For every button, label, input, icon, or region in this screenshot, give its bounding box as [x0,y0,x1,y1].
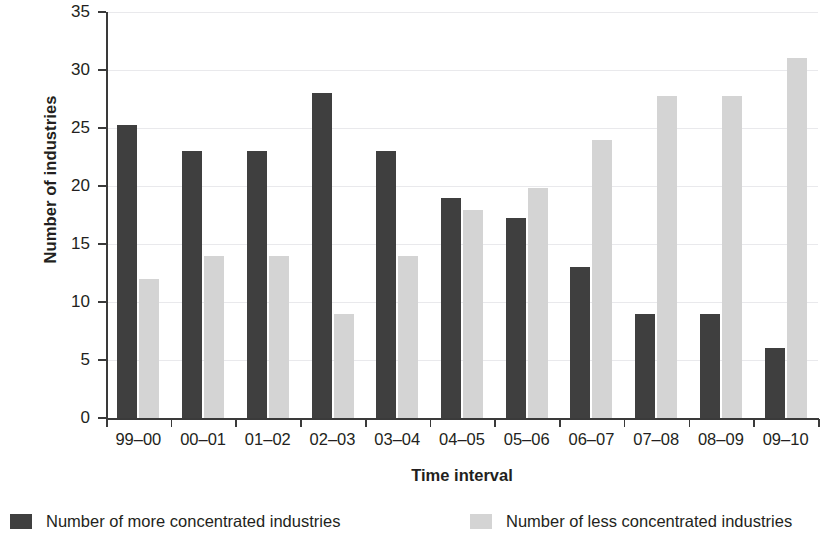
x-axis-tick-label: 07–08 [624,430,689,448]
legend-swatch-dark [10,514,32,529]
bar [312,93,332,418]
x-axis-tick-label: 06–07 [559,430,624,448]
x-axis-tick-label: 01–02 [235,430,300,448]
bar-group [635,12,677,418]
bar [139,279,159,418]
x-axis-tick-label: 09–10 [753,430,818,448]
x-axis-tick-label: 02–03 [300,430,365,448]
y-axis-tick-labels: 05101520253035 [28,0,90,430]
bar [441,198,461,418]
bar-group [570,12,612,418]
bar-group [441,12,483,418]
x-axis-tick-labels: 99–0000–0101–0202–0303–0404–0505–0606–07… [106,430,818,456]
bar [635,314,655,418]
bar [787,58,807,418]
legend-label: Number of more concentrated industries [46,512,340,531]
bar-group [765,12,807,418]
y-axis-line [106,12,108,419]
bar [657,96,677,418]
bar-group [247,12,289,418]
chart-legend: Number of more concentrated industriesNu… [0,508,823,542]
x-axis-tick [624,419,626,427]
bar-group [700,12,742,418]
y-axis-tick [98,301,106,303]
x-axis-tick [300,419,302,427]
bar [506,218,526,418]
x-axis-tick [494,419,496,427]
bar-group [182,12,224,418]
y-axis-tick [98,127,106,129]
bar [570,267,590,418]
bar [398,256,418,418]
bar-group [117,12,159,418]
x-axis-tick [818,419,820,427]
x-axis-tick [559,419,561,427]
x-axis-tick [753,419,755,427]
x-axis-tick-label: 04–05 [430,430,495,448]
y-axis-tick-label: 30 [30,61,90,78]
legend-swatch-light [470,514,492,529]
x-axis-tick [430,419,432,427]
x-axis-tick-label: 08–09 [689,430,754,448]
y-axis-tick-label: 15 [30,235,90,252]
x-axis-tick [235,419,237,427]
bar [765,348,785,418]
bar [334,314,354,418]
x-axis-tick [365,419,367,427]
x-axis-tick-label: 99–00 [106,430,171,448]
y-axis-tick-label: 25 [30,119,90,136]
bar [528,188,548,418]
bar [247,151,267,418]
plot-area [106,12,818,418]
y-axis-tick [98,243,106,245]
bar-group [506,12,548,418]
y-axis-tick [98,69,106,71]
bar [204,256,224,418]
y-axis-tick [98,417,106,419]
y-axis-tick-label: 10 [30,293,90,310]
legend-entry: Number of less concentrated industries [470,508,792,534]
bar-group [376,12,418,418]
x-axis-line [106,418,819,420]
legend-entry: Number of more concentrated industries [10,508,340,534]
x-axis-tick [106,419,108,427]
x-axis-tick-label: 03–04 [365,430,430,448]
y-axis-tick [98,185,106,187]
x-axis-tick-label: 05–06 [494,430,559,448]
bar [592,140,612,418]
bar-chart-figure: Number of industries 05101520253035 99–0… [0,0,823,547]
x-axis-tick [171,419,173,427]
y-axis-tick-label: 20 [30,177,90,194]
y-axis-tick [98,359,106,361]
bar [117,125,137,418]
y-axis-tick-label: 35 [30,3,90,20]
y-axis-tick [98,11,106,13]
y-axis-tick-label: 5 [30,351,90,368]
bar [269,256,289,418]
bar [463,210,483,418]
bar [182,151,202,418]
x-axis-tick-label: 00–01 [171,430,236,448]
bar [376,151,396,418]
bar [722,96,742,418]
bar [700,314,720,418]
bar-group [312,12,354,418]
legend-label: Number of less concentrated industries [506,512,792,531]
x-axis-tick [689,419,691,427]
y-axis-tick-label: 0 [30,409,90,426]
x-axis-title: Time interval [106,466,818,485]
